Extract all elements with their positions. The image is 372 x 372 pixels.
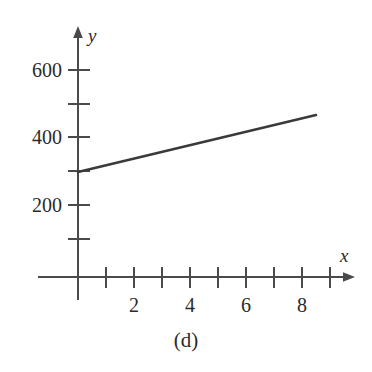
x-tick-label-4: 4 — [176, 295, 204, 315]
y-tick-label-400: 400 — [20, 127, 62, 147]
y-axis-label: y — [88, 26, 96, 45]
x-tick-label-6: 6 — [232, 295, 260, 315]
data-line-series — [78, 115, 316, 172]
figure-panel-d: 600 400 200 2 4 6 8 y x (d) — [0, 0, 372, 372]
x-axis — [38, 272, 355, 282]
chart-canvas — [0, 0, 372, 372]
x-axis-label: x — [340, 246, 348, 265]
x-tick-label-2: 2 — [120, 295, 148, 315]
figure-caption: (d) — [0, 330, 372, 351]
y-axis — [73, 26, 83, 300]
y-tick-label-600: 600 — [20, 60, 62, 80]
x-tick-label-8: 8 — [288, 295, 316, 315]
y-tick-label-200: 200 — [20, 195, 62, 215]
